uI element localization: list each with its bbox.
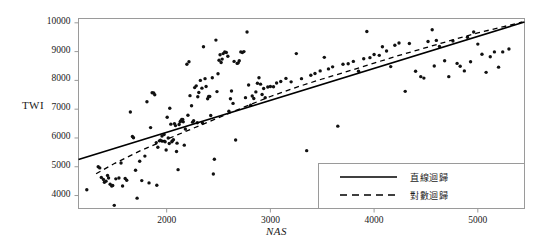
scatter-point: [295, 52, 298, 55]
scatter-point: [231, 102, 234, 105]
scatter-point: [259, 82, 262, 85]
scatter-point: [218, 53, 221, 56]
scatter-point: [219, 61, 222, 64]
scatter-point: [422, 76, 425, 79]
y-tick-label: 7000: [37, 102, 71, 112]
scatter-point: [501, 50, 504, 53]
x-tick-label: 5000: [455, 215, 501, 225]
scatter-point: [331, 65, 334, 68]
scatter-point: [284, 77, 287, 80]
scatter-point: [458, 65, 461, 68]
scatter-point: [435, 39, 438, 42]
legend-label-logarithmic: 對數迴歸: [410, 189, 448, 202]
scatter-point: [455, 62, 458, 65]
scatter-point: [190, 104, 193, 107]
scatter-point: [232, 60, 235, 63]
scatter-point: [365, 30, 368, 33]
scatter-point: [165, 116, 168, 119]
scatter-point: [216, 72, 219, 75]
scatter-point: [155, 183, 158, 186]
scatter-point: [447, 75, 450, 78]
scatter-point: [381, 45, 384, 48]
scatter-point: [121, 184, 124, 187]
scatter-point: [213, 158, 216, 161]
scatter-point: [226, 55, 229, 58]
scatter-point: [203, 77, 206, 80]
scatter-point: [362, 57, 365, 60]
scatter-point: [143, 154, 146, 157]
y-tick-label: 4000: [37, 189, 71, 199]
scatter-point: [134, 169, 137, 172]
scatter-point: [414, 69, 417, 72]
x-axis-title: NAS: [0, 225, 553, 237]
chart-figure: TWI NAS 40005000600070008000900010000 20…: [0, 0, 553, 251]
scatter-point: [393, 44, 396, 47]
scatter-point: [289, 80, 292, 83]
logarithmic-regression-curve: [96, 22, 522, 174]
scatter-point: [252, 97, 255, 100]
scatter-point: [230, 89, 233, 92]
scatter-point: [153, 93, 156, 96]
scatter-point: [182, 120, 185, 123]
scatter-point: [225, 51, 228, 54]
y-tick-label: 5000: [37, 160, 71, 170]
scatter-point: [183, 143, 186, 146]
scatter-point: [85, 188, 88, 191]
scatter-point: [211, 76, 214, 79]
scatter-point: [149, 126, 152, 129]
scatter-point: [352, 60, 355, 63]
scatter-point: [202, 45, 205, 48]
scatter-point: [300, 77, 303, 80]
scatter-point: [507, 47, 510, 50]
scatter-point: [244, 96, 247, 99]
scatter-point: [125, 179, 128, 182]
linear-regression-line: [79, 22, 525, 160]
scatter-point: [129, 110, 132, 113]
scatter-point: [323, 56, 326, 59]
scatter-point: [497, 65, 500, 68]
y-tick-label: 9000: [37, 45, 71, 55]
scatter-point: [272, 85, 275, 88]
regression-lines-layer: [79, 22, 525, 174]
scatter-point: [378, 54, 381, 57]
scatter-point: [199, 79, 202, 82]
scatter-point: [195, 84, 198, 87]
scatter-point: [372, 53, 375, 56]
scatter-point: [275, 81, 278, 84]
scatter-point: [346, 62, 349, 65]
scatter-point: [257, 76, 260, 79]
scatter-point: [187, 60, 190, 63]
scatter-point: [140, 179, 143, 182]
scatter-point: [98, 166, 101, 169]
scatter-point: [245, 30, 248, 33]
scatter-point: [208, 95, 211, 98]
scatter-point: [204, 85, 207, 88]
scatter-point: [336, 124, 339, 127]
scatter-point: [260, 93, 263, 96]
scatter-point: [147, 181, 150, 184]
scatter-point: [175, 141, 178, 144]
scatter-point: [269, 85, 272, 88]
scatter-point: [156, 145, 159, 148]
y-axis-ticks: [75, 23, 79, 196]
scatter-point: [247, 83, 250, 86]
scatter-point: [229, 97, 232, 100]
scatter-point: [476, 42, 479, 45]
scatter-point: [463, 69, 466, 72]
scatter-point: [215, 90, 218, 93]
scatter-point: [279, 80, 282, 83]
scatter-point: [175, 150, 178, 153]
scatter-point: [397, 41, 400, 44]
scatter-point: [104, 179, 107, 182]
scatter-point: [443, 59, 446, 62]
scatter-point: [176, 168, 179, 171]
scatter-point: [433, 64, 436, 67]
x-tick-label: 2000: [144, 215, 190, 225]
scatter-point: [419, 75, 422, 78]
scatter-point: [132, 136, 135, 139]
scatter-point: [169, 122, 172, 125]
scatter-point: [408, 42, 411, 45]
scatter-point: [145, 100, 148, 103]
scatter-point: [209, 114, 212, 117]
scatter-plot-canvas: [0, 0, 553, 251]
